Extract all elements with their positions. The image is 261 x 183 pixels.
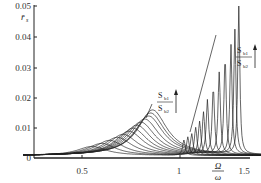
x-tick-label: 1.5: [238, 166, 250, 176]
ratio-annotation-right: S b1 S b2: [236, 44, 257, 69]
svg-text:S: S: [237, 59, 241, 68]
svg-text:b1: b1: [164, 96, 170, 101]
y-tick-label: 0.02: [15, 93, 31, 103]
response-curve: [23, 29, 261, 155]
svg-text:b1: b1: [243, 51, 249, 56]
x-tick-label: 1: [177, 166, 182, 176]
x-axis-label-denominator: ω: [215, 172, 221, 182]
x-axis-label-numerator: Ω: [215, 161, 222, 171]
response-curve: [23, 65, 261, 155]
svg-text:S: S: [237, 46, 241, 55]
resonance-chart: 0.05 0.04 0.03 0.02 0.01 0 r̄ s 0.5 1 1.…: [0, 0, 261, 183]
y-tick-label: 0.04: [15, 32, 31, 42]
response-curve: [23, 6, 261, 155]
curve-family: [23, 6, 261, 156]
x-tick-label: 0.5: [76, 166, 88, 176]
ratio-annotation-middle: S b1 S b2: [157, 89, 178, 114]
y-axis-label-sub: s: [26, 17, 29, 23]
response-curve: [23, 44, 261, 154]
svg-text:b2: b2: [243, 64, 249, 69]
svg-text:S: S: [158, 104, 162, 113]
svg-text:S: S: [158, 91, 162, 100]
y-axis-label: r̄: [21, 12, 25, 22]
y-tick-label: 0.01: [15, 123, 31, 133]
y-tick-label: 0.03: [15, 63, 31, 73]
response-curve: [23, 72, 261, 155]
y-tick-label: 0.05: [15, 1, 31, 11]
svg-text:b2: b2: [164, 109, 170, 114]
